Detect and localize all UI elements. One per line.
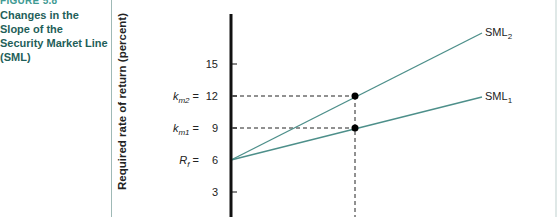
km1-marker [352, 125, 359, 132]
km2-marker [352, 93, 359, 100]
sml-plot [0, 0, 558, 217]
sml2-label: SML2 [485, 26, 512, 41]
sml1-label: SML1 [485, 90, 512, 105]
